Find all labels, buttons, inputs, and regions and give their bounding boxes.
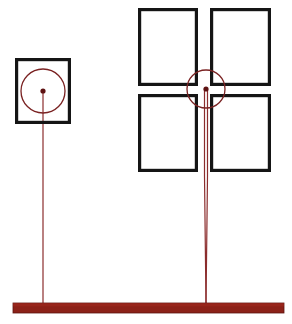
base-layer xyxy=(13,303,284,313)
diagram-canvas xyxy=(0,0,292,324)
scene-svg xyxy=(0,0,292,324)
background xyxy=(0,0,292,324)
right-assembly-center-dot xyxy=(203,86,208,91)
left-assembly-center-dot xyxy=(40,88,45,93)
base-rail-highlight xyxy=(13,303,284,306)
